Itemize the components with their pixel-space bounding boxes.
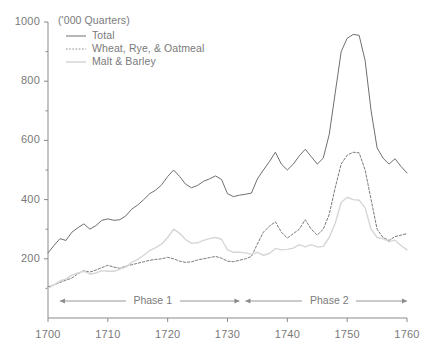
x-tick-label: 1760	[382, 328, 424, 340]
legend-swatch-dashed-icon	[66, 45, 86, 53]
x-tick-label: 1740	[262, 328, 312, 340]
legend-item-total: Total	[66, 29, 204, 42]
phase-label-1: Phase 2	[302, 294, 356, 306]
legend-swatch-light-icon	[66, 58, 86, 66]
x-tick-label: 1710	[83, 328, 133, 340]
legend-label-wheat-rye-oatmeal: Wheat, Rye, & Oatmeal	[92, 42, 204, 55]
x-tick-label: 1700	[23, 328, 73, 340]
chart-legend: ('000 Quarters) Total Wheat, Rye, & Oatm…	[58, 14, 204, 68]
legend-unit-label: ('000 Quarters)	[58, 14, 204, 27]
x-tick-label: 1720	[143, 328, 193, 340]
y-tick-label: 800	[0, 74, 40, 86]
series-lines	[48, 34, 407, 288]
phase-arrow-head	[245, 298, 250, 303]
x-tick-label: 1730	[203, 328, 253, 340]
y-tick-label: 400	[0, 193, 40, 205]
phase-arrow-head	[402, 298, 407, 303]
series-line-1	[48, 152, 407, 287]
x-tick-label: 1750	[322, 328, 372, 340]
phase-label-0: Phase 1	[126, 294, 180, 306]
y-tick-label: 1000	[0, 15, 40, 27]
phase-arrow-head	[60, 298, 65, 303]
legend-label-malt-barley: Malt & Barley	[92, 55, 156, 68]
legend-label-total: Total	[92, 29, 115, 42]
phase-arrow-head	[234, 298, 239, 303]
legend-swatch-solid-icon	[66, 32, 86, 40]
y-tick-label: 600	[0, 133, 40, 145]
legend-item-malt-barley: Malt & Barley	[66, 55, 204, 68]
legend-item-wheat-rye-oatmeal: Wheat, Rye, & Oatmeal	[66, 42, 204, 55]
series-line-2	[48, 197, 407, 288]
y-tick-label: 200	[0, 252, 40, 264]
